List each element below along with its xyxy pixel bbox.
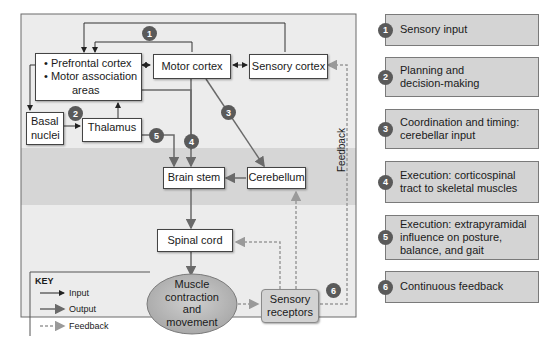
legend-number-2: 2 xyxy=(378,70,393,85)
legend-number-5: 5 xyxy=(378,230,393,245)
legend-number-4: 4 xyxy=(378,175,393,190)
sensory-cortex-node: Sensory cortex xyxy=(249,54,328,79)
legend-card-1: 1 Sensory input xyxy=(385,14,539,46)
badge-4: 4 xyxy=(184,134,199,149)
spinal-cord-node: Spinal cord xyxy=(157,229,233,252)
badge-5: 5 xyxy=(149,128,164,143)
prefrontal-cortex-node: • Prefrontal cortex • Motor association … xyxy=(35,53,142,101)
sensory-receptors-node: Sensory receptors xyxy=(261,289,319,323)
muscle-label: Muscle contraction and movement xyxy=(147,278,237,329)
brain-stem-node: Brain stem xyxy=(163,167,225,189)
legend-text-6: Continuous feedback xyxy=(386,280,503,293)
feedback-label: Feedback xyxy=(336,128,347,172)
legend-text-4: Execution: corticospinal tract to skelet… xyxy=(386,169,535,195)
key-box: KEY Input Output Feedback xyxy=(30,272,120,336)
legend-number-6: 6 xyxy=(378,280,393,295)
key-item-feedback: Feedback xyxy=(69,321,109,331)
legend-text-3: Coordination and timing: cerebellar inpu… xyxy=(386,116,535,142)
thalamus-node: Thalamus xyxy=(82,118,142,142)
legend-text-1: Sensory input xyxy=(386,23,467,36)
cerebellum-node: Cerebellum xyxy=(247,167,306,189)
badge-6: 6 xyxy=(326,283,341,298)
legend-card-4: 4 Execution: corticospinal tract to skel… xyxy=(385,161,539,203)
legend-text-2: Planning and decision-making xyxy=(386,64,510,90)
badge-2: 2 xyxy=(68,106,83,121)
legend-text-5: Execution: extrapyramidal influence on p… xyxy=(386,218,530,258)
legend-number-1: 1 xyxy=(378,23,393,38)
badge-3: 3 xyxy=(221,105,236,120)
legend-card-3: 3 Coordination and timing: cerebellar in… xyxy=(385,109,539,149)
legend-card-5: 5 Execution: extrapyramidal influence on… xyxy=(385,215,539,260)
key-item-input: Input xyxy=(69,288,89,298)
legend-card-6: 6 Continuous feedback xyxy=(385,271,539,303)
badge-1: 1 xyxy=(142,26,157,41)
legend-card-2: 2 Planning and decision-making xyxy=(385,57,539,97)
basal-nuclei-node: Basal nuclei xyxy=(26,112,64,145)
key-title: KEY xyxy=(35,276,54,286)
legend-number-3: 3 xyxy=(378,122,393,137)
key-item-output: Output xyxy=(69,304,96,314)
motor-cortex-node: Motor cortex xyxy=(153,54,231,79)
